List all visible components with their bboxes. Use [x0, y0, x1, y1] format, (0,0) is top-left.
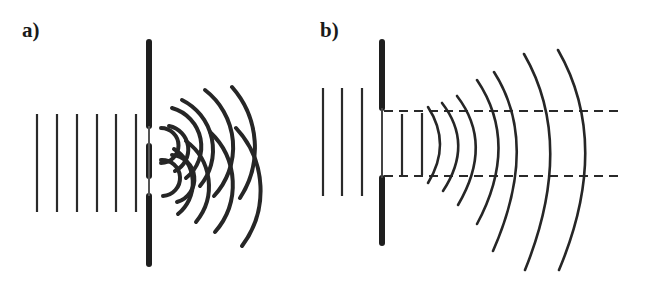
panel-b-shadow-boundaries: [384, 111, 624, 176]
panel-a-double-slit: [37, 42, 261, 264]
panel-b-single-aperture: [323, 42, 624, 270]
diffraction-diagram: a) b): [0, 0, 646, 286]
panel-b-aperture-wavefronts: [402, 113, 422, 175]
panel-a-plane-waves: [37, 114, 136, 212]
diagram-canvas: [0, 0, 646, 286]
panel-b-plane-waves: [323, 88, 362, 196]
panel-b-diffracted-wavefronts: [428, 50, 585, 270]
